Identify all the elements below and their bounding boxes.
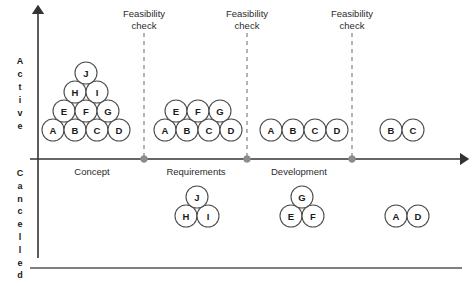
node-label: A xyxy=(268,125,275,136)
item-node-B[interactable]: B xyxy=(380,119,402,141)
item-node-C[interactable]: C xyxy=(304,119,326,141)
gate-label-line2: check xyxy=(235,20,260,31)
y-axis-cancelled-label-char: a xyxy=(17,181,23,191)
item-node-F[interactable]: F xyxy=(75,100,97,122)
y-axis-active-label-char: c xyxy=(17,69,22,79)
y-axis-cancelled-label-char: l xyxy=(19,245,22,255)
item-node-D[interactable]: D xyxy=(407,205,429,227)
item-node-B[interactable]: B xyxy=(64,119,86,141)
node-label: B xyxy=(72,125,79,136)
item-node-A[interactable]: A xyxy=(42,119,64,141)
item-node-A[interactable]: A xyxy=(260,119,282,141)
item-node-F[interactable]: F xyxy=(187,100,209,122)
node-label: E xyxy=(173,106,179,117)
item-node-G[interactable]: G xyxy=(291,186,313,208)
node-label: C xyxy=(410,125,417,136)
y-axis-active-label-char: t xyxy=(19,82,22,92)
lifecycle-diagram: FeasibilitycheckFeasibilitycheckFeasibil… xyxy=(0,0,472,286)
group-development-active-row-0: ABCD xyxy=(260,119,348,141)
node-label: B xyxy=(290,125,297,136)
group-concept-active-row-1: EFG xyxy=(53,100,119,122)
node-label: F xyxy=(83,106,89,117)
item-node-C[interactable]: C xyxy=(402,119,424,141)
item-node-I[interactable]: I xyxy=(197,205,219,227)
item-node-H[interactable]: H xyxy=(175,205,197,227)
phase-concept-label: Concept xyxy=(74,166,110,177)
node-label: A xyxy=(393,211,400,222)
y-axis-cancelled-label-char: d xyxy=(17,270,23,280)
node-label: D xyxy=(415,211,422,222)
y-axis-cancelled-label-char: e xyxy=(17,258,22,268)
y-axis-cancelled-label-char: C xyxy=(17,168,24,178)
y-axis-cancelled-label-char: n xyxy=(17,194,23,204)
item-node-D[interactable]: D xyxy=(108,119,130,141)
item-node-A[interactable]: A xyxy=(154,119,176,141)
item-node-A[interactable]: A xyxy=(385,205,407,227)
node-label: J xyxy=(194,192,199,203)
y-axis-active-label: Active xyxy=(17,56,24,131)
item-node-layer: ABCDEFGHIJABCDEFGABCDBCHIJEFGAD xyxy=(42,62,429,227)
item-node-E[interactable]: E xyxy=(165,100,187,122)
diagram-canvas: FeasibilitycheckFeasibilitycheckFeasibil… xyxy=(0,0,472,286)
y-axis-active-label-char: i xyxy=(19,95,22,105)
gate-marker-dot-1 xyxy=(141,156,148,163)
node-label: G xyxy=(216,106,223,117)
group-development-cancelled-row-1: G xyxy=(291,186,313,208)
item-node-G[interactable]: G xyxy=(209,100,231,122)
item-node-F[interactable]: F xyxy=(302,205,324,227)
node-label: C xyxy=(312,125,319,136)
y-axis-active-label-char: A xyxy=(17,56,24,66)
y-axis-cancelled-label-char: e xyxy=(17,219,22,229)
node-label: C xyxy=(94,125,101,136)
group-development-cancelled: EFG xyxy=(280,186,324,227)
item-node-G[interactable]: G xyxy=(97,100,119,122)
group-post-cancelled-row-0: AD xyxy=(385,205,429,227)
node-label: D xyxy=(228,125,235,136)
node-label: F xyxy=(195,106,201,117)
item-node-C[interactable]: C xyxy=(86,119,108,141)
item-node-B[interactable]: B xyxy=(282,119,304,141)
gate-label-line1: Feasibility xyxy=(123,8,165,19)
item-node-H[interactable]: H xyxy=(64,81,86,103)
gate-label-line2: check xyxy=(132,20,157,31)
node-label: I xyxy=(96,87,99,98)
y-axis-active-label-char: e xyxy=(17,121,22,131)
node-label: E xyxy=(288,211,294,222)
axis-label-layer: ActiveCancelled xyxy=(17,56,24,280)
node-label: I xyxy=(207,211,210,222)
gate-marker-dot-3 xyxy=(349,156,356,163)
node-label: E xyxy=(61,106,67,117)
y-axis-cancelled-label-char: l xyxy=(19,232,22,242)
item-node-D[interactable]: D xyxy=(326,119,348,141)
node-label: F xyxy=(310,211,316,222)
phase-label-layer: ConceptRequirementsDevelopment xyxy=(74,166,327,177)
group-development-active: ABCD xyxy=(260,119,348,141)
group-concept-active-row-3: J xyxy=(75,62,97,84)
gate-label-line1: Feasibility xyxy=(226,8,268,19)
item-node-J[interactable]: J xyxy=(186,186,208,208)
group-post-active: BC xyxy=(380,119,424,141)
node-label: A xyxy=(162,125,169,136)
node-label: J xyxy=(83,68,88,79)
node-label: D xyxy=(334,125,341,136)
gate-label-line1: Feasibility xyxy=(331,8,373,19)
y-axis-cancelled-label: Cancelled xyxy=(17,168,24,280)
item-node-E[interactable]: E xyxy=(280,205,302,227)
group-requirements-cancelled: HIJ xyxy=(175,186,219,227)
node-label: A xyxy=(50,125,57,136)
gate-label-line2: check xyxy=(340,20,365,31)
item-node-B[interactable]: B xyxy=(176,119,198,141)
group-requirements-active: ABCDEFG xyxy=(154,100,242,141)
item-node-D[interactable]: D xyxy=(220,119,242,141)
item-node-I[interactable]: I xyxy=(86,81,108,103)
item-node-E[interactable]: E xyxy=(53,100,75,122)
gate-marker-dot-2 xyxy=(244,156,251,163)
node-label: G xyxy=(104,106,111,117)
item-node-J[interactable]: J xyxy=(75,62,97,84)
y-axis-cancelled-label-char: c xyxy=(17,206,22,216)
phase-development-label: Development xyxy=(271,166,327,177)
group-post-active-row-0: BC xyxy=(380,119,424,141)
y-axis-active-label-char: v xyxy=(17,108,22,118)
item-node-C[interactable]: C xyxy=(198,119,220,141)
node-label: B xyxy=(184,125,191,136)
